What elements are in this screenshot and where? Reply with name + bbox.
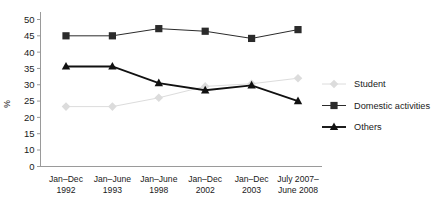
x-tick-label: 1993: [103, 185, 122, 195]
y-tick-label: 35: [24, 63, 35, 74]
legend-item-domestic-activities[interactable]: Domestic activities: [322, 101, 430, 111]
data-point-square: [155, 25, 162, 32]
y-tick-label: 45: [24, 30, 35, 41]
y-tick-marks: [37, 20, 41, 167]
x-tick-label: July 2007–: [277, 174, 319, 184]
data-point-diamond: [62, 102, 71, 111]
y-axis-title: %: [2, 100, 12, 108]
data-point-square: [202, 28, 209, 35]
series-line: [66, 78, 298, 106]
line-chart: 0101520253035404550 % Jan–Dec1992Jan–Jun…: [0, 0, 431, 208]
legend-label: Domestic activities: [354, 101, 430, 111]
x-tick-label: 1992: [56, 185, 75, 195]
x-tick-label: Jan–Dec: [235, 174, 270, 184]
data-point-diamond: [108, 102, 117, 111]
data-point-diamond: [155, 94, 164, 103]
data-point-square: [330, 102, 337, 109]
y-tick-label: 40: [24, 47, 35, 58]
y-tick-label: 0: [29, 161, 34, 172]
series-others: [62, 62, 302, 104]
x-tick-labels: Jan–Dec1992Jan–June1993Jan–June1998Jan–D…: [49, 174, 319, 195]
y-tick-label: 30: [24, 79, 35, 90]
legend-item-others[interactable]: Others: [322, 122, 382, 132]
series-domestic-activities: [62, 25, 301, 42]
data-series-group: [62, 25, 303, 111]
chart-container: 0101520253035404550 % Jan–Dec1992Jan–Jun…: [0, 0, 431, 208]
data-point-diamond: [294, 74, 303, 83]
data-point-square: [109, 32, 116, 39]
y-tick-label: 15: [24, 128, 35, 139]
data-point-square: [294, 26, 301, 33]
y-tick-label: 25: [24, 95, 35, 106]
series-student: [62, 74, 303, 111]
x-tick-label: Jan–Dec: [188, 174, 223, 184]
y-tick-label: 10: [24, 144, 35, 155]
series-line: [66, 66, 298, 101]
y-tick-label: 20: [24, 112, 35, 123]
y-tick-label: 50: [24, 14, 35, 25]
y-tick-labels: 0101520253035404550: [24, 14, 35, 172]
x-tick-label: Jan–Dec: [49, 174, 84, 184]
legend-label: Student: [354, 79, 386, 89]
x-tick-label: June 2008: [278, 185, 318, 195]
data-point-diamond: [330, 80, 339, 89]
legend-item-student[interactable]: Student: [322, 79, 386, 89]
x-tick-label: 2003: [242, 185, 261, 195]
data-point-square: [248, 35, 255, 42]
chart-legend: StudentDomestic activitiesOthers: [322, 79, 430, 132]
data-point-square: [62, 32, 69, 39]
x-tick-label: Jan–June: [140, 174, 177, 184]
series-line: [66, 29, 298, 39]
x-tick-label: Jan–June: [94, 174, 131, 184]
x-tick-label: 2002: [196, 185, 215, 195]
x-tick-label: 1998: [149, 185, 168, 195]
legend-label: Others: [354, 122, 382, 132]
